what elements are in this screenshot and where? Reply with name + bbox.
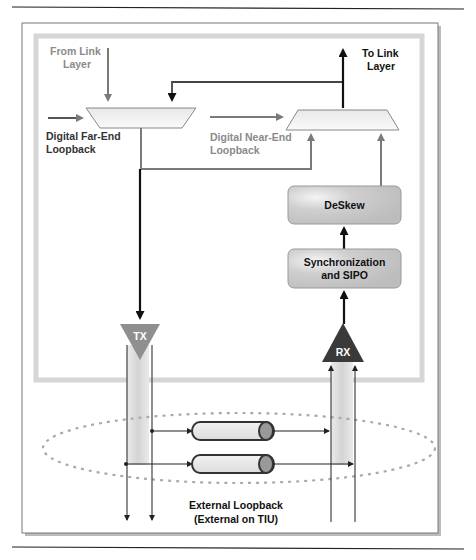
- external-loopback-label-2: (External on TIU): [194, 513, 278, 525]
- from-link-layer-label: From Link: [50, 45, 101, 57]
- loopback-diagram: From Link Layer To Link Layer Digital Fa…: [0, 0, 476, 560]
- from-link-layer-label-2: Layer: [63, 58, 91, 70]
- near-end-mux: [286, 110, 399, 130]
- sync-label: Synchronization: [304, 256, 386, 268]
- deskew-label: DeSkew: [324, 199, 365, 211]
- external-loopback-label: External Loopback: [189, 499, 283, 511]
- far-end-mux: [86, 108, 196, 128]
- tx-label: TX: [133, 330, 146, 342]
- near-end-loopback-label-2: Loopback: [210, 144, 260, 156]
- to-link-layer-label: To Link: [362, 47, 399, 59]
- near-end-loopback-label: Digital Near-End: [210, 131, 292, 143]
- far-end-loopback-label-2: Loopback: [46, 143, 96, 155]
- rx-label: RX: [336, 346, 351, 358]
- to-link-layer-label-2: Layer: [367, 60, 395, 72]
- sync-label-2: and SIPO: [321, 269, 368, 281]
- far-end-loopback-label: Digital Far-End: [46, 130, 121, 142]
